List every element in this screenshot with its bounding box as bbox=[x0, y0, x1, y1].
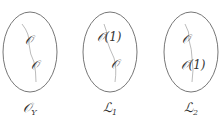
node-l2-2: 𝒪(1) bbox=[168, 58, 218, 72]
node-oy-2: 𝒪 bbox=[6, 58, 64, 72]
label-l1-main: ℒ bbox=[103, 100, 112, 115]
label-l1-sub: 1 bbox=[112, 108, 117, 117]
node-oy-1: 𝒪 bbox=[0, 33, 58, 47]
ellipse-3 bbox=[164, 12, 218, 92]
label-l2-sub: 2 bbox=[193, 108, 198, 117]
node-l1-1: 𝒪(1) bbox=[84, 30, 134, 44]
label-l1: ℒ1 bbox=[82, 100, 138, 117]
label-oy-sub: Y bbox=[31, 108, 36, 117]
panel-l1 bbox=[83, 12, 137, 92]
ellipse-2 bbox=[83, 12, 137, 92]
label-oy: 𝒪Y bbox=[2, 100, 58, 117]
panel-l2 bbox=[164, 12, 218, 92]
label-l2: ℒ2 bbox=[163, 100, 219, 117]
label-l2-main: ℒ bbox=[184, 100, 193, 115]
panel-oy bbox=[3, 12, 57, 92]
node-l1-2: 𝒪 bbox=[90, 57, 140, 71]
node-l2-1: 𝒪 bbox=[161, 32, 211, 46]
